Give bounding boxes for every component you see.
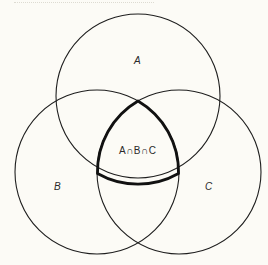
label-a: A	[133, 55, 141, 66]
venn-figure: A B C A∩B∩C	[0, 0, 268, 265]
label-b: B	[54, 181, 61, 192]
triple-intersection-outline	[97, 101, 178, 184]
label-c: C	[205, 181, 213, 192]
venn-diagram: A B C A∩B∩C	[0, 0, 268, 265]
label-intersection: A∩B∩C	[119, 145, 156, 156]
